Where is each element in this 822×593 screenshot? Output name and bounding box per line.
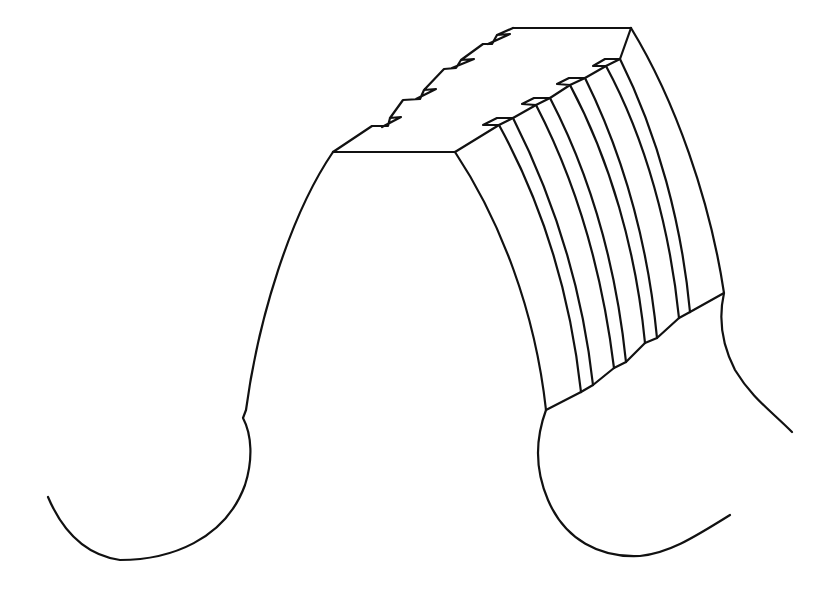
top-land [333,28,631,152]
grooved-right-flank [455,28,724,410]
far-right-root-fillet [721,293,792,432]
right-root-fillet [538,410,730,556]
gear-tooth-drawing [0,0,822,593]
left-flank [48,152,333,560]
